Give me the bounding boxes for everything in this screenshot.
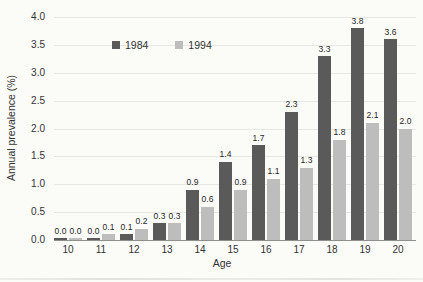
value-label-1994-age-16: 1.1 xyxy=(268,167,280,176)
y-tick-label: 3.0 xyxy=(31,67,45,78)
bar-group-age-11: 0.00.1 xyxy=(87,17,115,240)
value-label-1984-age-12: 0.1 xyxy=(121,223,133,232)
bar-1984-age-12 xyxy=(120,234,133,240)
y-tick-label: 1.5 xyxy=(31,150,45,161)
bar-1994-age-15 xyxy=(234,190,247,240)
x-tick-label: 19 xyxy=(359,244,370,255)
value-label-1984-age-11: 0.0 xyxy=(88,227,100,236)
x-tick-label: 17 xyxy=(293,244,304,255)
value-label-1984-age-20: 3.6 xyxy=(385,28,397,37)
x-tick-label: 10 xyxy=(62,244,73,255)
y-tick-label: 3.5 xyxy=(31,39,45,50)
y-tick-label: 2.0 xyxy=(31,123,45,134)
value-label-1984-age-10: 0.0 xyxy=(55,227,67,236)
bar-1994-age-14 xyxy=(201,207,214,240)
legend-swatch-1984 xyxy=(112,41,120,49)
value-label-1984-age-19: 3.8 xyxy=(352,17,364,26)
value-label-1984-age-15: 1.4 xyxy=(220,150,232,159)
x-tick-label: 16 xyxy=(260,244,271,255)
y-tick-label: 4.0 xyxy=(31,11,45,22)
bar-1994-age-20 xyxy=(399,129,412,241)
y-tick-label: 0.0 xyxy=(31,234,45,245)
x-tick-label: 11 xyxy=(96,244,106,255)
bar-1984-age-16 xyxy=(252,145,265,240)
bar-1984-age-13 xyxy=(153,223,166,240)
value-label-1994-age-15: 0.9 xyxy=(235,178,247,187)
bar-group-age-16: 1.71.1 xyxy=(252,17,280,240)
bar-group-age-15: 1.40.9 xyxy=(219,17,247,240)
x-tick-label: 12 xyxy=(128,244,139,255)
y-tick-label: 2.5 xyxy=(31,95,45,106)
bar-group-age-17: 2.31.3 xyxy=(285,17,313,240)
x-tick-label: 13 xyxy=(161,244,172,255)
plot-area: 0.00.00.00.10.10.20.30.30.90.61.40.91.71… xyxy=(54,17,416,241)
value-label-1984-age-16: 1.7 xyxy=(253,134,265,143)
bar-1994-age-17 xyxy=(300,168,313,240)
legend-label-1994: 1994 xyxy=(188,39,211,51)
y-axis-tick-labels: 4.03.53.02.52.01.51.00.50.0 xyxy=(0,17,49,240)
bar-group-age-18: 3.31.8 xyxy=(318,17,346,240)
bar-1984-age-14 xyxy=(186,190,199,240)
bar-1984-age-15 xyxy=(219,162,232,240)
legend-item-1994: 1994 xyxy=(175,39,211,51)
bar-1994-age-18 xyxy=(333,140,346,240)
bar-1994-age-12 xyxy=(135,229,148,240)
scan-artifact-line xyxy=(0,278,423,280)
value-label-1984-age-17: 2.3 xyxy=(286,100,298,109)
bar-1994-age-13 xyxy=(168,223,181,240)
bar-1994-age-10 xyxy=(69,238,82,240)
bar-1994-age-16 xyxy=(267,179,280,240)
x-axis-title: Age xyxy=(213,257,232,269)
value-label-1994-age-18: 1.8 xyxy=(334,128,346,137)
value-label-1994-age-10: 0.0 xyxy=(70,227,82,236)
bar-group-age-10: 0.00.0 xyxy=(54,17,82,240)
bar-group-age-19: 3.82.1 xyxy=(351,17,379,240)
x-axis-tick-labels: 1011121314151617181920 xyxy=(54,244,416,256)
bar-group-age-20: 3.62.0 xyxy=(384,17,412,240)
value-label-1994-age-12: 0.2 xyxy=(136,217,148,226)
x-tick-label: 18 xyxy=(326,244,337,255)
x-tick-label: 14 xyxy=(194,244,205,255)
y-tick-label: 0.5 xyxy=(31,206,45,217)
value-label-1994-age-17: 1.3 xyxy=(301,156,313,165)
x-tick-label: 15 xyxy=(227,244,238,255)
bar-1994-age-19 xyxy=(366,123,379,240)
bar-1984-age-17 xyxy=(285,112,298,240)
bar-1984-age-20 xyxy=(384,39,397,240)
bar-1984-age-10 xyxy=(54,238,67,240)
bar-1984-age-19 xyxy=(351,28,364,240)
bar-1984-age-18 xyxy=(318,56,331,240)
y-tick-label: 1.0 xyxy=(31,178,45,189)
bar-1984-age-11 xyxy=(87,238,100,240)
legend-swatch-1994 xyxy=(175,41,183,49)
value-label-1984-age-18: 3.3 xyxy=(319,45,331,54)
bar-1994-age-11 xyxy=(102,234,115,240)
value-label-1984-age-13: 0.3 xyxy=(154,212,166,221)
value-label-1994-age-19: 2.1 xyxy=(367,111,379,120)
legend: 1984 1994 xyxy=(112,39,212,51)
value-label-1994-age-11: 0.1 xyxy=(103,223,115,232)
value-label-1984-age-14: 0.9 xyxy=(187,178,199,187)
bar-chart-figure: Annual prevalence (%) 4.03.53.02.52.01.5… xyxy=(0,0,423,282)
value-label-1994-age-13: 0.3 xyxy=(169,212,181,221)
value-label-1994-age-20: 2.0 xyxy=(400,117,412,126)
value-label-1994-age-14: 0.6 xyxy=(202,195,214,204)
legend-label-1984: 1984 xyxy=(125,39,148,51)
legend-item-1984: 1984 xyxy=(112,39,148,51)
x-tick-label: 20 xyxy=(392,244,403,255)
